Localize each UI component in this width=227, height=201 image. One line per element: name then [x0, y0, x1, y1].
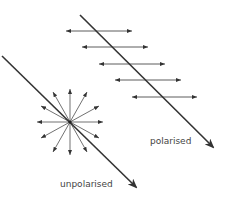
polarised-beam-arrow	[80, 15, 213, 147]
polarised-oscillation-arrows	[66, 31, 197, 97]
unpolarised-label: unpolarised	[60, 179, 113, 189]
polarisation-diagram: polarised unpolarised	[0, 0, 227, 201]
starburst-center	[68, 120, 71, 123]
polarised-label: polarised	[150, 136, 191, 146]
